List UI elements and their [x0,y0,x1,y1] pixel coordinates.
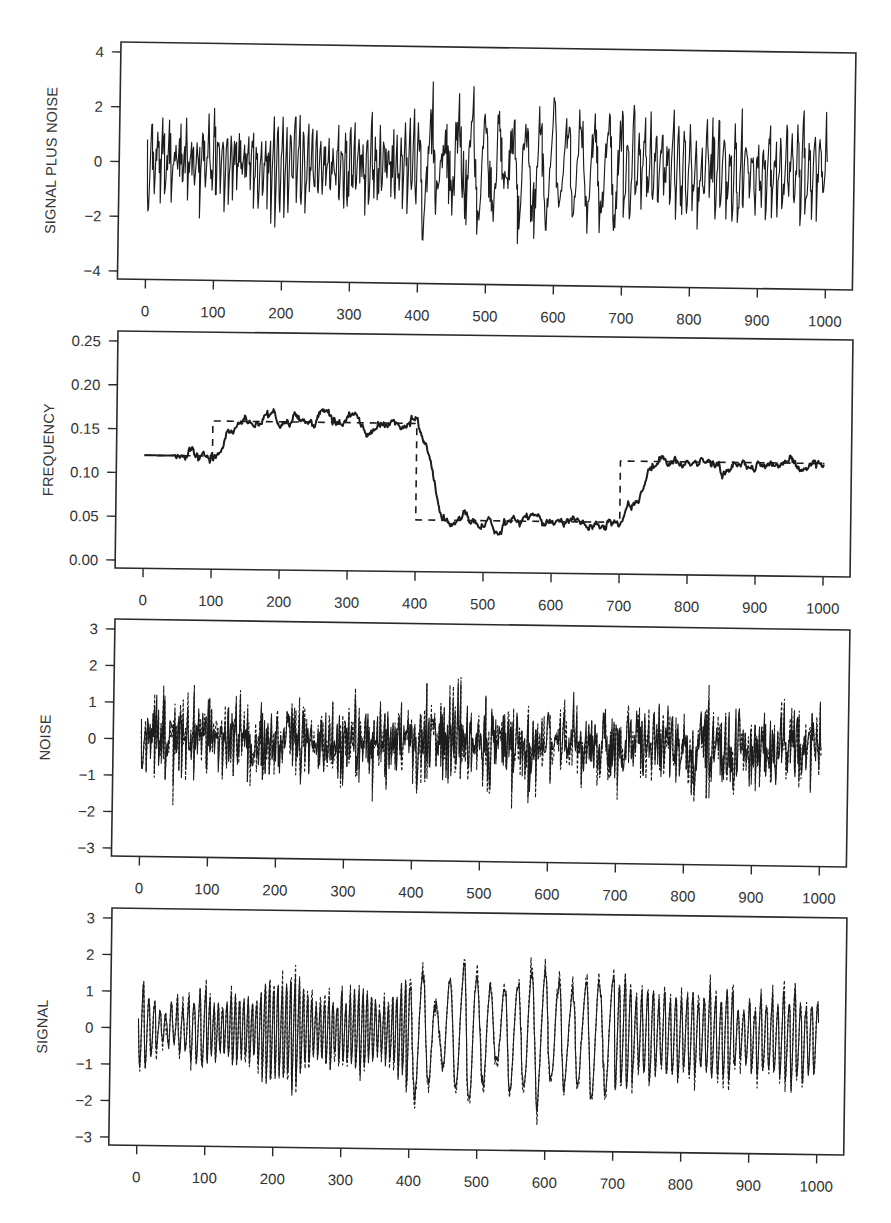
y-tick-label: 0 [85,1019,94,1036]
x-tick-label: 100 [198,592,223,609]
x-tick-label: 0 [135,879,144,896]
x-tick-label: 1000 [808,312,842,329]
y-tick-label: 1 [85,982,94,999]
x-tick-label: 200 [268,304,293,321]
x-axis: 01002003004005006007008009001000 [135,856,836,907]
x-tick-label: 600 [540,308,565,325]
y-tick-label: 1 [88,693,97,710]
x-tick-label: 400 [396,1172,421,1189]
figure: 01002003004005006007008009001000−4−2024S… [0,0,891,1223]
x-tick-label: 300 [336,305,361,322]
x-tick-label: 900 [742,599,767,616]
y-tick-label: 0.05 [69,507,98,524]
x-tick-label: 1000 [799,1177,833,1194]
x-tick-label: 200 [266,593,291,610]
x-tick-label: 300 [330,882,355,899]
x-tick-label: 500 [464,1173,489,1190]
panel-noise: 01002003004005006007008009001000−3−2−101… [35,618,850,907]
series-estimated-noise [140,680,822,802]
plot-area [137,952,819,1128]
plot-area [140,673,822,815]
x-tick-label: 600 [532,1174,557,1191]
x-tick-label: 400 [402,594,427,611]
x-tick-label: 0 [132,1168,141,1185]
y-axis-title: SIGNAL [34,999,51,1054]
y-tick-label: 3 [89,620,98,637]
y-tick-label: −1 [78,766,95,783]
y-axis: −3−2−10123 [75,909,112,1145]
x-tick-label: 100 [192,1169,217,1186]
panel-signal: 01002003004005006007008009001000−3−2−101… [32,907,847,1195]
x-tick-label: 200 [262,881,287,898]
x-tick-label: 1000 [802,889,836,906]
y-axis: −3−2−10123 [77,620,115,856]
x-tick-label: 100 [200,303,225,320]
y-tick-label: 2 [86,946,95,963]
y-axis-title: NOISE [37,714,54,760]
y-tick-label: 0.10 [70,463,99,480]
y-tick-label: 0 [88,730,97,747]
series-estimated-frequency [144,407,825,538]
y-axis-title: SIGNAL PLUS NOISE [42,87,60,234]
x-tick-label: 0 [141,302,150,319]
y-tick-label: −2 [78,802,95,819]
x-axis: 01002003004005006007008009001000 [141,279,842,330]
y-tick-label: 4 [95,43,104,60]
x-tick-label: 800 [668,1176,693,1193]
y-tick-label: −3 [77,839,94,856]
y-tick-label: 0.15 [71,420,100,437]
x-tick-label: 900 [736,1177,761,1194]
x-tick-label: 700 [600,1175,625,1192]
x-tick-label: 0 [138,591,147,608]
y-tick-label: 3 [86,909,95,926]
plot-frame [115,331,853,577]
x-tick-label: 600 [538,596,563,613]
y-axis-title: FREQUENCY [40,403,57,496]
y-tick-label: 0.25 [72,332,101,349]
y-tick-label: 0 [94,153,103,170]
x-tick-label: 500 [472,307,497,324]
panel-frequency: 010020030040050060070080090010000.000.05… [39,330,853,617]
y-tick-label: 0.00 [69,551,98,568]
panel-signal-plus-noise: 01002003004005006007008009001000−4−2024S… [41,41,856,330]
plot-area [146,78,828,248]
y-tick-label: 2 [95,98,104,115]
x-tick-label: 1000 [806,599,840,616]
x-tick-label: 900 [744,311,769,328]
y-axis: 0.000.050.100.150.200.25 [69,332,118,569]
x-tick-label: 500 [470,595,495,612]
x-tick-label: 900 [738,888,763,905]
x-tick-label: 800 [676,310,701,327]
x-tick-label: 400 [404,306,429,323]
y-tick-label: 0.20 [71,376,100,393]
x-tick-label: 400 [398,883,423,900]
x-tick-label: 600 [534,885,559,902]
x-tick-label: 300 [334,594,359,611]
x-tick-label: 300 [328,1171,353,1188]
y-tick-label: −2 [75,1092,92,1109]
y-tick-label: 2 [89,657,98,674]
y-tick-label: −2 [84,207,101,224]
x-tick-label: 700 [602,886,627,903]
y-tick-label: −4 [83,262,100,279]
plot-area [144,407,825,538]
x-tick-label: 700 [606,597,631,614]
y-tick-label: −3 [75,1128,92,1145]
y-tick-label: −1 [76,1055,93,1072]
x-tick-label: 700 [608,309,633,326]
y-axis: −4−2024 [83,43,121,279]
x-tick-label: 800 [674,598,699,615]
series-signal-plus-noise [146,78,828,248]
x-tick-label: 100 [194,880,219,897]
x-tick-label: 500 [466,884,491,901]
x-tick-label: 800 [670,887,695,904]
x-tick-label: 200 [260,1170,285,1187]
